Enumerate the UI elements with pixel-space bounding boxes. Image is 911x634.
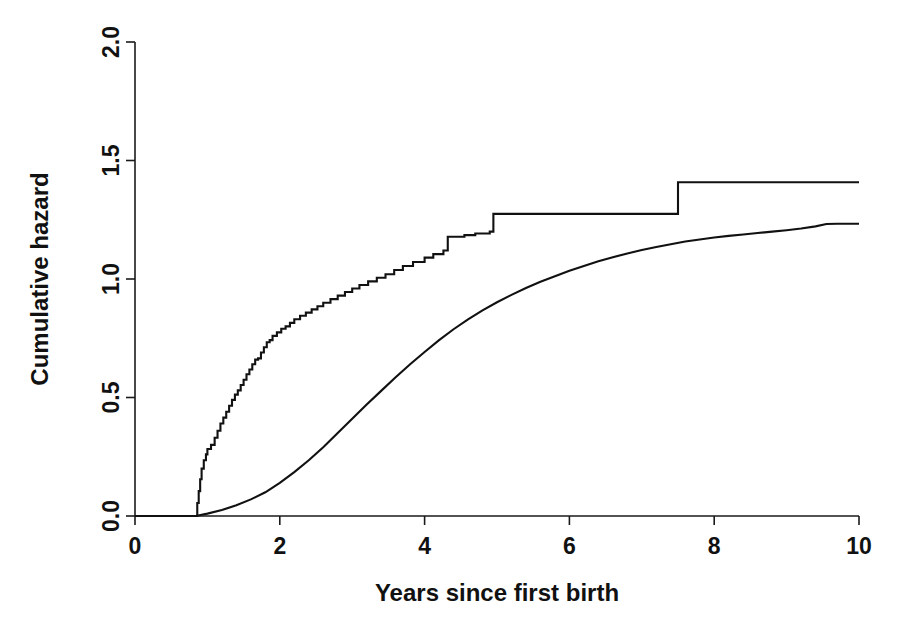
y-tick-label: 1.0 [98,263,124,295]
x-tick-label: 10 [846,533,872,559]
step-curve-nelson-aalen [135,182,859,516]
smooth-curve-parametric [135,224,859,516]
y-axis-ticks [126,42,135,516]
x-tick-label: 4 [418,533,431,559]
x-tick-label: 2 [273,533,286,559]
y-axis-title: Cumulative hazard [26,172,53,385]
x-tick-label: 0 [129,533,142,559]
x-tick-label: 8 [708,533,721,559]
y-axis-tick-labels: 0.00.51.01.52.0 [98,26,124,532]
y-tick-label: 2.0 [98,26,124,58]
y-tick-label: 0.0 [98,500,124,532]
chart-canvas: 0.00.51.01.52.0 0246810 Cumulative hazar… [0,0,911,634]
y-tick-label: 0.5 [98,381,124,413]
x-axis-title: Years since first birth [375,579,619,606]
cumulative-hazard-figure: 0.00.51.01.52.0 0246810 Cumulative hazar… [0,0,911,634]
x-tick-label: 6 [563,533,576,559]
x-axis-ticks [135,516,859,525]
x-axis-tick-labels: 0246810 [129,533,872,559]
y-tick-label: 1.5 [98,144,124,176]
